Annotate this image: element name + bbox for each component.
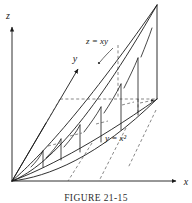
- ruled-strip-ribs: [31, 28, 152, 167]
- rib-3: [64, 125, 80, 147]
- rib-5: [104, 84, 121, 113]
- figure-caption: FIGURE 21-15: [0, 192, 192, 203]
- rib-2: [46, 139, 61, 158]
- surface-upper-back-edge: [12, 5, 157, 181]
- rib-1: [31, 151, 43, 167]
- dashed-projection-3: [128, 110, 156, 168]
- rib-6: [124, 58, 138, 88]
- z-equation-leader-dot: [98, 62, 100, 64]
- rib-4: [84, 107, 101, 132]
- x-axis-label: x: [183, 176, 189, 187]
- figure-diagram: z y x z = xy y = x²: [0, 0, 192, 203]
- surface-equation-label: z = xy: [85, 36, 108, 46]
- dashed-rib-mark-3: [96, 121, 108, 124]
- dashed-rib-mark-4: [122, 102, 134, 105]
- z-axis-label: z: [5, 10, 10, 21]
- boundary-curve-equation-label: y = x²: [104, 133, 127, 143]
- figure-container: z y x z = xy y = x² FIGURE 21-15: [0, 0, 192, 203]
- solid-outline-group: [12, 5, 157, 181]
- y-axis-label: y: [72, 53, 78, 64]
- surface-upper-front-edge: [12, 5, 157, 181]
- rib-7: [141, 28, 152, 57]
- z-equation-leader: [100, 48, 113, 62]
- leader-line-group: [98, 48, 113, 64]
- figure-caption-text: FIGURE 21-15: [64, 193, 128, 203]
